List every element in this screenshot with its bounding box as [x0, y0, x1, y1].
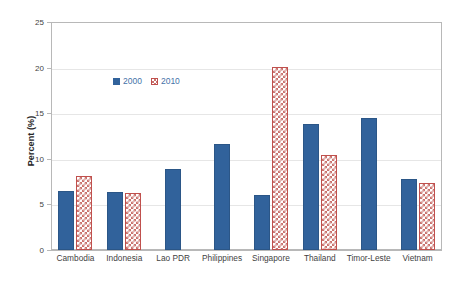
y-tick-label: 0: [4, 246, 44, 255]
y-axis-title: Percent (%): [26, 115, 36, 166]
bar-cambodia-2010: [76, 176, 92, 250]
y-tick-label: 10: [4, 154, 44, 163]
solid-blue-swatch: [113, 78, 120, 85]
bar-timor-leste-2000: [361, 118, 377, 250]
bar-thailand-2010: [321, 155, 337, 250]
x-tick-label-vietnam: Vietnam: [393, 253, 442, 263]
hatched-red-swatch: [151, 78, 158, 85]
x-axis-labels: CambodiaIndonesiaLao PDRPhilippinesSinga…: [51, 253, 442, 273]
x-tick-label-thailand: Thailand: [295, 253, 344, 263]
y-tick-label: 25: [4, 18, 44, 27]
bar-chart: Percent (%) 0510152025 CambodiaIndonesia…: [0, 0, 455, 281]
x-tick-label-cambodia: Cambodia: [51, 253, 100, 263]
bar-cambodia-2000: [58, 191, 74, 250]
bar-lao-pdr-2000: [165, 169, 181, 250]
bars-layer: [51, 22, 442, 250]
x-tick-label-timor-leste: Timor-Leste: [344, 253, 393, 263]
bar-indonesia-2000: [107, 192, 123, 250]
legend-item-2010: 2010: [151, 76, 180, 86]
bar-vietnam-2000: [401, 179, 417, 250]
x-axis-line: [51, 250, 442, 251]
bar-indonesia-2010: [125, 193, 141, 250]
bar-philippines-2000: [214, 144, 230, 250]
x-tick-label-indonesia: Indonesia: [100, 253, 149, 263]
bar-vietnam-2010: [419, 183, 435, 250]
y-tick-label: 15: [4, 109, 44, 118]
y-tick-label: 5: [4, 200, 44, 209]
x-tick-label-philippines: Philippines: [198, 253, 247, 263]
bar-thailand-2000: [303, 124, 319, 250]
legend-label: 2000: [123, 76, 142, 86]
x-tick-label-singapore: Singapore: [247, 253, 296, 263]
x-tick-label-lao-pdr: Lao PDR: [149, 253, 198, 263]
chart-legend: 20002010: [113, 76, 180, 86]
legend-label: 2010: [161, 76, 180, 86]
y-tick-label: 20: [4, 63, 44, 72]
bar-singapore-2010: [272, 67, 288, 250]
legend-item-2000: 2000: [113, 76, 142, 86]
bar-singapore-2000: [254, 195, 270, 250]
